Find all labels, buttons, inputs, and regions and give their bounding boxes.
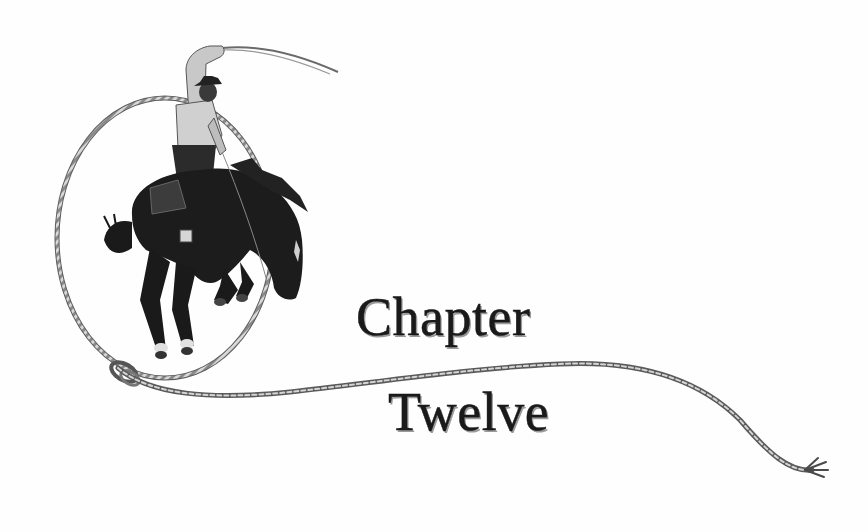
raised-rope-end xyxy=(222,47,338,74)
rope-frayed-end xyxy=(805,458,828,477)
chapter-title-page: Chapter Twelve xyxy=(0,0,868,532)
chapter-heading-line2: Twelve xyxy=(388,385,549,439)
bucking-horse xyxy=(104,152,308,359)
chapter-heading-line1: Chapter xyxy=(356,290,530,344)
bronco-lasso-illustration xyxy=(0,0,868,532)
